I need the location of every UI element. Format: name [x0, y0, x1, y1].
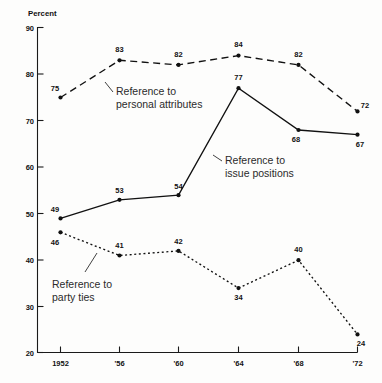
- y-axis-title: Percent: [28, 9, 57, 18]
- annot-personal-attributes-line2: personal attributes: [116, 98, 202, 110]
- data-point: [176, 193, 180, 197]
- x-tick-label-72: '72: [352, 359, 362, 368]
- data-label: 42: [174, 237, 182, 246]
- data-point: [355, 332, 359, 336]
- data-point: [58, 216, 62, 220]
- data-point: [176, 63, 180, 67]
- data-point: [117, 58, 121, 62]
- y-axis-ticks: [38, 28, 44, 353]
- data-point: [296, 63, 300, 67]
- annot-issue-positions-line2: issue positions: [225, 167, 294, 179]
- annot-party-ties-line2: party ties: [52, 291, 95, 303]
- y-tick-label: 70: [26, 117, 34, 126]
- y-tick-label: 90: [26, 24, 34, 33]
- data-label: 75: [51, 84, 59, 93]
- data-label: 72: [361, 101, 369, 110]
- data-point: [296, 128, 300, 132]
- data-point: [176, 249, 180, 253]
- x-axis-tick-labels: 1952 '56 '60 '64 '68 '72: [52, 359, 362, 368]
- chart-container: Percent 90 80 70 60 50 40: [0, 0, 382, 383]
- data-point: [236, 86, 240, 90]
- annot-issue-positions: Reference to issue positions: [213, 154, 294, 179]
- data-point: [355, 109, 359, 113]
- data-point: [236, 286, 240, 290]
- data-label: 67: [356, 140, 364, 149]
- x-tick-label-56: '56: [114, 359, 124, 368]
- series-issue-positions: 49 53 54 77 68 67: [51, 73, 364, 221]
- x-tick-label-1952: 1952: [52, 359, 69, 368]
- y-axis-tick-labels: 90 80 70 60 50 40 30 20: [26, 24, 34, 358]
- data-label: 82: [174, 50, 182, 59]
- data-point: [236, 54, 240, 58]
- annot-party-ties: Reference to party ties: [52, 253, 112, 303]
- annot-personal-attributes-line1: Reference to: [116, 85, 176, 97]
- x-axis-ticks: [61, 347, 358, 353]
- x-tick-label-60: '60: [173, 359, 183, 368]
- y-tick-label: 60: [26, 163, 34, 172]
- axis-lines: [38, 27, 358, 353]
- data-label: 83: [115, 45, 123, 54]
- y-tick-label: 30: [26, 303, 34, 312]
- data-point: [117, 198, 121, 202]
- y-tick-label: 20: [26, 349, 34, 358]
- x-tick-label-68: '68: [293, 359, 303, 368]
- data-point: [58, 95, 62, 99]
- data-label: 77: [234, 73, 242, 82]
- y-tick-label: 80: [26, 70, 34, 79]
- data-point: [296, 258, 300, 262]
- data-label: 68: [292, 135, 300, 144]
- x-tick-label-64: '64: [233, 359, 244, 368]
- data-label: 40: [294, 245, 302, 254]
- data-label: 49: [51, 205, 59, 214]
- data-label: 53: [115, 186, 123, 195]
- series-personal-attributes: 75 83 82 84 82 72: [51, 40, 369, 114]
- data-label: 41: [115, 241, 123, 250]
- data-point: [58, 230, 62, 234]
- series-line-personal-attributes: [61, 56, 358, 112]
- data-label: 24: [357, 339, 366, 348]
- series-line-issue-positions: [61, 88, 358, 218]
- data-label: 82: [294, 50, 302, 59]
- data-label: 46: [51, 238, 59, 247]
- data-label: 84: [234, 40, 243, 49]
- line-chart: Percent 90 80 70 60 50 40: [0, 0, 382, 383]
- data-label: 54: [174, 182, 183, 191]
- annot-party-ties-line1: Reference to: [52, 278, 112, 290]
- annot-personal-attributes: Reference to personal attributes: [105, 82, 202, 110]
- data-point: [355, 133, 359, 137]
- y-tick-label: 40: [26, 256, 34, 265]
- y-tick-label: 50: [26, 210, 34, 219]
- data-point: [117, 253, 121, 257]
- data-label: 34: [234, 293, 243, 302]
- annot-issue-positions-line1: Reference to: [225, 154, 285, 166]
